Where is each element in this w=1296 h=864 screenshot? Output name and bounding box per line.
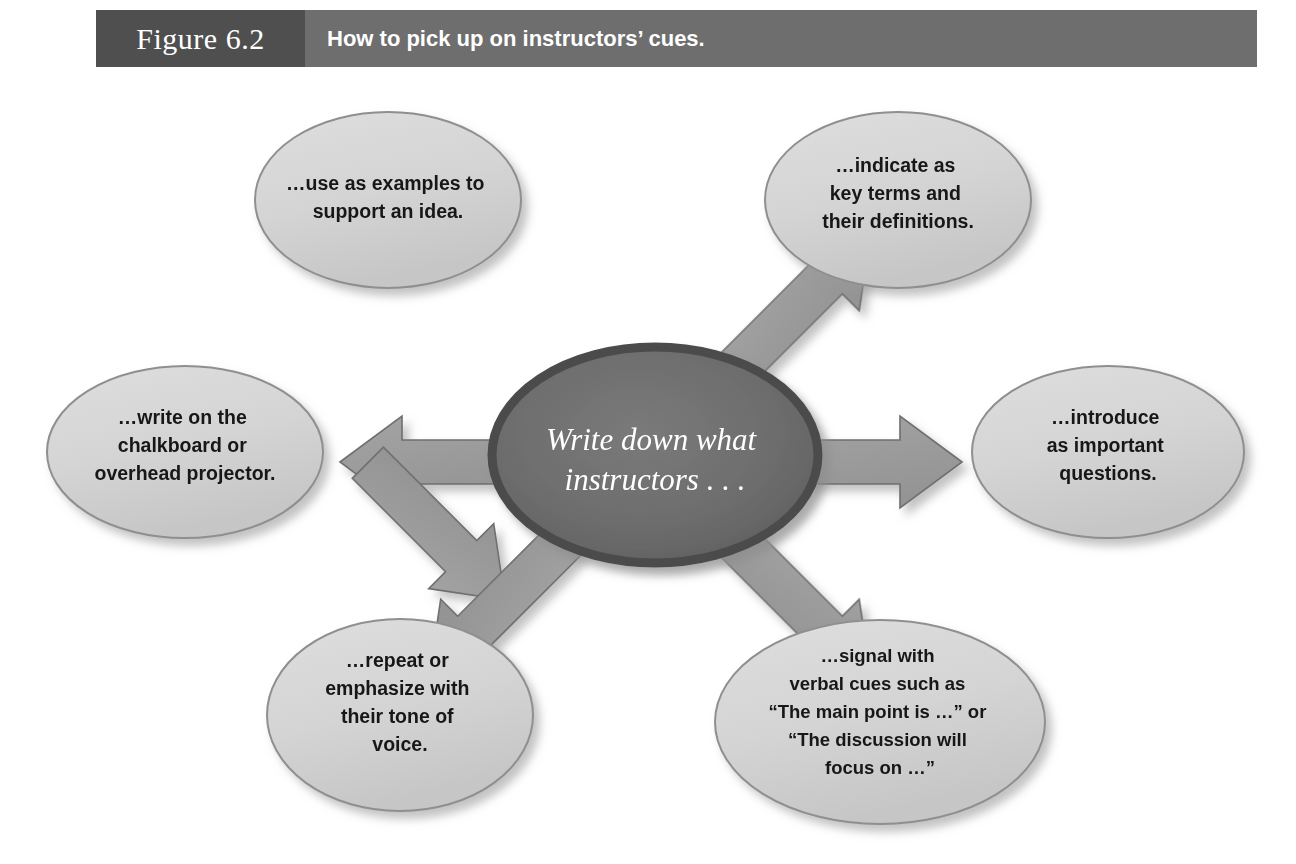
node-line-2: questions. [1059,462,1157,484]
node-line-0: …write on the [118,406,247,428]
hub-line-1: instructors . . . [565,462,746,497]
node-line-0: …signal with [820,645,934,666]
node-bottom-left[interactable]: …repeat or emphasize with their tone of … [267,619,533,811]
node-line-2: “The main point is …” or [768,701,986,722]
node-top-left[interactable]: …use as examples to support an idea. [255,112,521,288]
node-label: …indicate as key terms and their definit… [822,154,974,232]
node-line-1: chalkboard or [118,434,247,456]
node-line-0: …repeat or [346,649,449,671]
node-line-0: …indicate as [835,154,955,176]
node-label: …write on the chalkboard or overhead pro… [95,406,276,484]
node-label: …introduce as important questions. [1047,406,1169,484]
node-line-1: key terms and [830,182,961,204]
node-line-1: emphasize with [325,677,469,699]
node-bottom-right[interactable]: …signal with verbal cues such as “The ma… [715,620,1045,824]
node-line-0: …introduce [1051,406,1159,428]
node-line-2: overhead projector. [95,462,276,484]
node-left[interactable]: …write on the chalkboard or overhead pro… [47,366,323,538]
hub-line-0: Write down what [546,422,758,457]
node-line-0: …use as examples to [286,172,484,194]
node-line-2: their definitions. [822,210,974,232]
node-line-3: voice. [372,733,427,755]
figure-root: Figure 6.2 How to pick up on instructors… [0,0,1296,864]
node-line-2: their tone of [341,705,454,727]
node-line-3: “The discussion will [788,729,967,750]
node-right[interactable]: …introduce as important questions. [972,366,1244,538]
node-line-1: as important [1047,434,1165,456]
node-line-1: verbal cues such as [790,673,966,694]
node-top-right[interactable]: …indicate as key terms and their definit… [765,112,1031,288]
node-line-1: support an idea. [313,200,464,222]
node-line-4: focus on …” [825,757,935,778]
cue-diagram: Write down what instructors . . . …use a… [0,0,1296,864]
